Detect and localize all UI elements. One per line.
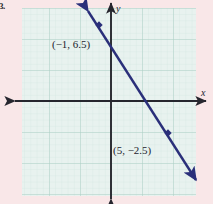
coordinate-plane: (−1, 6.5) (5, −2.5) y x bbox=[0, 0, 213, 204]
graph-svg: (−1, 6.5) (5, −2.5) y x bbox=[0, 0, 213, 204]
data-point-label-1: (−1, 6.5) bbox=[52, 38, 91, 51]
figure-root: 3. bbox=[0, 0, 213, 204]
x-axis-label: x bbox=[200, 87, 206, 98]
data-point-label-2: (5, −2.5) bbox=[113, 144, 152, 157]
y-axis-label: y bbox=[115, 3, 121, 14]
plot-background bbox=[22, 8, 196, 196]
